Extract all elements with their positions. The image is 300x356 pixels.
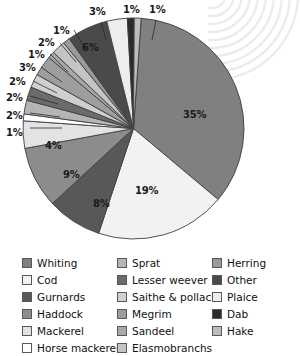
- legend-swatch-elasmobranchs: [117, 343, 127, 353]
- legend-label: Plaice: [227, 291, 258, 303]
- pie-percent-label: 1%: [149, 5, 166, 15]
- legend-swatch-haddock: [22, 309, 32, 319]
- pie-percent-label: 2%: [9, 77, 26, 87]
- legend-item[interactable]: Other: [212, 271, 300, 288]
- pie-percent-label: 2%: [6, 111, 23, 121]
- legend-swatch-dab: [212, 309, 222, 319]
- legend-item[interactable]: Sandeel: [117, 322, 212, 339]
- legend-label: Other: [227, 274, 257, 286]
- legend-label: Elasmobranchs: [132, 342, 212, 354]
- legend-item[interactable]: Cod: [22, 271, 132, 288]
- legend-label: Saithe & pollack: [132, 291, 217, 303]
- pie-percent-label: 4%: [45, 141, 62, 151]
- legend-item[interactable]: Elasmobranchs: [117, 339, 212, 356]
- legend-item[interactable]: Whiting: [22, 254, 132, 271]
- pie-percent-label: 8%: [93, 199, 110, 209]
- legend-swatch-other: [212, 275, 222, 285]
- pie-percent-label: 1%: [53, 26, 70, 36]
- legend-item[interactable]: Herring: [212, 254, 300, 271]
- legend-label: Gurnards: [37, 291, 85, 303]
- pie-percent-label: 1%: [28, 50, 45, 60]
- legend-column-3: Herring Other Plaice Dab Hake: [212, 254, 300, 339]
- pie-percent-label: 1%: [6, 128, 23, 138]
- pie-percent-label: 3%: [89, 7, 106, 17]
- legend-label: Dab: [227, 308, 248, 320]
- pie-chart: 35%19%8%9%4%1%2%2%2%3%1%2%1%6%3%1%1%: [0, 0, 300, 256]
- legend-item[interactable]: Lesser weever: [117, 271, 212, 288]
- legend-swatch-whiting: [22, 258, 32, 268]
- legend-swatch-cod: [22, 275, 32, 285]
- legend-item[interactable]: Gurnards: [22, 288, 132, 305]
- pie-percent-label: 2%: [38, 38, 55, 48]
- legend-swatch-mackerel: [22, 326, 32, 336]
- legend-swatch-megrim: [117, 309, 127, 319]
- legend-label: Herring: [227, 257, 266, 269]
- legend-item[interactable]: Haddock: [22, 305, 132, 322]
- legend-label: Horse mackerel: [37, 342, 119, 354]
- legend-swatch-plaice: [212, 292, 222, 302]
- legend-label: Hake: [227, 325, 254, 337]
- legend-column-2: Sprat Lesser weever Saithe & pollack Meg…: [117, 254, 212, 356]
- legend-label: Cod: [37, 274, 57, 286]
- pie-percent-label: 2%: [6, 93, 23, 103]
- legend-label: Haddock: [37, 308, 83, 320]
- legend-swatch-gurnards: [22, 292, 32, 302]
- legend-label: Megrim: [132, 308, 172, 320]
- legend-item[interactable]: Megrim: [117, 305, 212, 322]
- chart-legend: Whiting Cod Gurnards Haddock Mackerel Ho…: [0, 254, 300, 348]
- pie-percent-label: 19%: [135, 186, 158, 196]
- legend-item[interactable]: Mackerel: [22, 322, 132, 339]
- legend-swatch-sprat: [117, 258, 127, 268]
- pie-percent-label: 9%: [63, 170, 80, 180]
- pie-percent-label: 1%: [123, 5, 140, 15]
- legend-swatch-herring: [212, 258, 222, 268]
- pie-percent-label: 35%: [183, 110, 206, 120]
- legend-label: Mackerel: [37, 325, 84, 337]
- legend-item[interactable]: Plaice: [212, 288, 300, 305]
- legend-swatch-horse-mackerel: [22, 343, 32, 353]
- legend-item[interactable]: Horse mackerel: [22, 339, 132, 356]
- pie-percent-label: 3%: [19, 63, 36, 73]
- legend-swatch-saithe-pollack: [117, 292, 127, 302]
- legend-item[interactable]: Hake: [212, 322, 300, 339]
- legend-column-1: Whiting Cod Gurnards Haddock Mackerel Ho…: [22, 254, 132, 356]
- legend-label: Whiting: [37, 257, 77, 269]
- legend-label: Lesser weever: [132, 274, 208, 286]
- legend-swatch-sandeel: [117, 326, 127, 336]
- legend-swatch-lesser-weever: [117, 275, 127, 285]
- pie-slice-group: [23, 18, 244, 239]
- legend-swatch-hake: [212, 326, 222, 336]
- legend-label: Sandeel: [132, 325, 174, 337]
- legend-item[interactable]: Sprat: [117, 254, 212, 271]
- legend-label: Sprat: [132, 257, 160, 269]
- legend-item[interactable]: Dab: [212, 305, 300, 322]
- pie-percent-label: 6%: [82, 43, 99, 53]
- legend-item[interactable]: Saithe & pollack: [117, 288, 212, 305]
